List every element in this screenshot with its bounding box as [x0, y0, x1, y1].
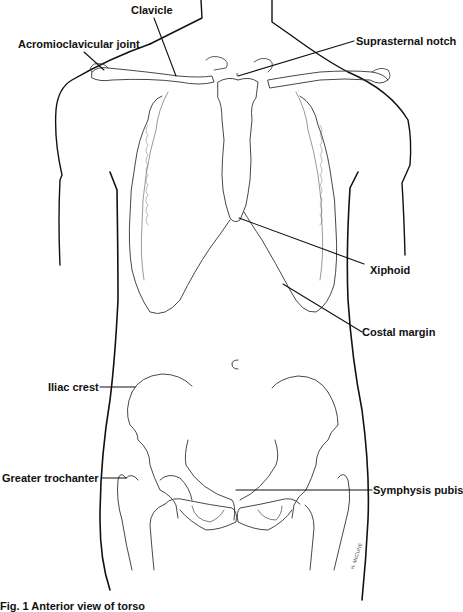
left-ilium [127, 374, 192, 518]
left-torso-outline [100, 172, 118, 590]
figure-caption: Fig. 1 Anterior view of torso [0, 600, 145, 612]
label-clavicle: Clavicle [131, 4, 173, 16]
left-femur [150, 504, 165, 570]
right-torso-outline [347, 172, 368, 600]
leader-clavicle [154, 18, 176, 76]
leader-xiphoid [239, 218, 364, 264]
label-symphysis-pubis: Symphysis pubis [373, 484, 463, 496]
label-suprasternal-notch: Suprasternal notch [356, 35, 456, 47]
label-iliac-crest: Iliac crest [48, 381, 99, 393]
sternum [218, 78, 258, 221]
right-shoulder-arm-outline [348, 72, 411, 255]
label-greater-trochanter: Greater trochanter [2, 472, 99, 484]
label-xiphoid: Xiphoid [370, 264, 410, 276]
leader-costal-margin [283, 284, 362, 332]
neck-outline-right [272, 0, 348, 72]
left-greater-trochanter [126, 475, 138, 480]
left-first-rib-head [206, 56, 227, 70]
right-femur [305, 505, 314, 570]
right-ilium [272, 376, 338, 518]
right-clavicle [268, 71, 388, 88]
label-costal-margin: Costal margin [362, 326, 435, 338]
right-pubic-ramus [237, 499, 300, 530]
left-costal-margin [129, 96, 230, 314]
label-acromioclavicular-joint: Acromioclavicular joint [18, 38, 140, 50]
left-shoulder-arm-outline [56, 44, 150, 265]
right-costal-margin [244, 96, 337, 312]
left-pubic-ramus [165, 499, 237, 530]
right-pelvic-inlet [240, 440, 278, 500]
left-clavicle [92, 68, 214, 85]
